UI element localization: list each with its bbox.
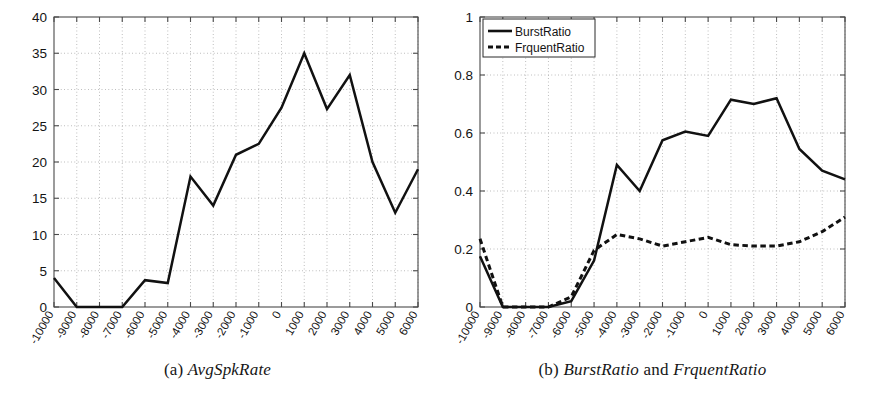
x-tick-label-group: 4000 xyxy=(351,309,374,337)
x-tick-label: 0 xyxy=(270,309,284,321)
x-tick-label: -4000 xyxy=(167,309,192,340)
x-tick-label-group: -9000 xyxy=(53,309,78,340)
x-tick-label: 2000 xyxy=(306,309,329,337)
x-tick-label-group: -10000 xyxy=(27,309,55,346)
figure-panel-a: 0510152025303540-10000-9000-8000-7000-60… xyxy=(0,0,435,416)
x-tick-label: 5000 xyxy=(374,309,397,337)
legend-label-frquentratio: FrquentRatio xyxy=(515,41,585,55)
y-tick-label: 25 xyxy=(32,119,47,134)
y-tick-label: 35 xyxy=(32,46,47,61)
x-tick-label: -8000 xyxy=(76,309,101,340)
x-tick-label-group: 0 xyxy=(696,309,710,321)
x-tick-label-group: -7000 xyxy=(99,309,124,340)
x-tick-label-group: -9000 xyxy=(479,309,504,340)
x-tick-label-group: 1000 xyxy=(709,309,732,337)
x-tick-label: -5000 xyxy=(144,309,169,340)
x-tick-label: 6000 xyxy=(397,309,420,337)
y-tick-label: 0.4 xyxy=(454,184,473,199)
x-tick-label: -6000 xyxy=(548,309,573,340)
x-tick-label: -5000 xyxy=(571,309,596,340)
x-tick-label: 6000 xyxy=(824,309,847,337)
x-tick-label-group: 5000 xyxy=(801,309,824,337)
x-tick-label: -9000 xyxy=(479,309,504,340)
x-tick-label-group: 1000 xyxy=(283,309,306,337)
x-tick-label: -10000 xyxy=(453,309,481,346)
x-tick-label: -2000 xyxy=(639,309,664,340)
x-tick-label-group: -1000 xyxy=(235,309,260,340)
y-tick-label: 0.8 xyxy=(454,68,473,83)
caption-a: (a) AvgSpkRate xyxy=(0,360,435,380)
x-tick-label: -2000 xyxy=(213,309,238,340)
x-tick-label: -1000 xyxy=(662,309,687,340)
y-tick-label: 0.2 xyxy=(454,242,473,257)
x-tick-label: -3000 xyxy=(190,309,215,340)
x-tick-label: 0 xyxy=(696,309,710,321)
y-tick-label: 40 xyxy=(32,10,47,25)
caption-b-conjunction: and xyxy=(644,360,669,379)
x-tick-label: 1000 xyxy=(283,309,306,337)
x-tick-label: -4000 xyxy=(594,309,619,340)
y-tick-label: 0.6 xyxy=(454,126,473,141)
caption-a-text: AvgSpkRate xyxy=(188,360,271,379)
x-tick-label: 1000 xyxy=(709,309,732,337)
x-tick-label-group: -3000 xyxy=(190,309,215,340)
x-tick-label-group: 4000 xyxy=(778,309,801,337)
x-tick-label-group: 6000 xyxy=(824,309,847,337)
figure-panel-b: 00.20.40.60.81-10000-9000-8000-7000-6000… xyxy=(435,0,870,416)
x-tick-label-group: -2000 xyxy=(213,309,238,340)
x-tick-label-group: -10000 xyxy=(453,309,481,346)
y-tick-label: 10 xyxy=(32,228,47,243)
x-tick-label: -8000 xyxy=(502,309,527,340)
x-tick-label: 4000 xyxy=(778,309,801,337)
x-tick-label-group: 3000 xyxy=(328,309,351,337)
caption-a-label: (a) xyxy=(164,360,183,379)
x-tick-label-group: -4000 xyxy=(167,309,192,340)
caption-b: (b) BurstRatio and FrquentRatio xyxy=(435,360,870,380)
x-tick-label: -3000 xyxy=(616,309,641,340)
x-tick-label-group: 6000 xyxy=(397,309,420,337)
x-tick-label-group: 2000 xyxy=(732,309,755,337)
x-tick-label: 4000 xyxy=(351,309,374,337)
y-tick-label: 15 xyxy=(32,191,47,206)
x-tick-label-group: -4000 xyxy=(594,309,619,340)
x-tick-label-group: -8000 xyxy=(502,309,527,340)
y-tick-label: 30 xyxy=(32,83,47,98)
x-tick-label-group: -1000 xyxy=(662,309,687,340)
x-tick-label-group: -7000 xyxy=(525,309,550,340)
caption-b-label: (b) xyxy=(539,360,559,379)
x-tick-label-group: -6000 xyxy=(122,309,147,340)
x-tick-label: 2000 xyxy=(732,309,755,337)
plot-background xyxy=(480,17,845,307)
x-tick-label-group: 5000 xyxy=(374,309,397,337)
x-tick-label: -1000 xyxy=(235,309,260,340)
x-tick-label-group: -5000 xyxy=(144,309,169,340)
y-tick-label: 1 xyxy=(465,10,473,25)
x-tick-label-group: -5000 xyxy=(571,309,596,340)
x-tick-label-group: -6000 xyxy=(548,309,573,340)
x-tick-label-group: -8000 xyxy=(76,309,101,340)
y-tick-label: 20 xyxy=(32,155,47,170)
caption-b-text-1: BurstRatio xyxy=(563,360,639,379)
x-tick-label: 3000 xyxy=(328,309,351,337)
x-tick-label-group: 3000 xyxy=(755,309,778,337)
x-tick-label-group: -3000 xyxy=(616,309,641,340)
x-tick-label: -7000 xyxy=(525,309,550,340)
figure-container: 0510152025303540-10000-9000-8000-7000-60… xyxy=(0,0,870,416)
x-tick-label-group: -2000 xyxy=(639,309,664,340)
x-tick-label-group: 2000 xyxy=(306,309,329,337)
chart-b-burstratio-frquentratio: 00.20.40.60.81-10000-9000-8000-7000-6000… xyxy=(435,0,870,360)
caption-b-text-2: FrquentRatio xyxy=(673,360,766,379)
x-tick-label: -6000 xyxy=(122,309,147,340)
legend-label-burstratio: BurstRatio xyxy=(515,25,571,39)
x-tick-label: 5000 xyxy=(801,309,824,337)
chart-a-avgspkrate: 0510152025303540-10000-9000-8000-7000-60… xyxy=(0,0,435,360)
x-tick-label: 3000 xyxy=(755,309,778,337)
x-tick-label: -9000 xyxy=(53,309,78,340)
x-tick-label-group: 0 xyxy=(270,309,284,321)
x-tick-label: -7000 xyxy=(99,309,124,340)
x-tick-label: -10000 xyxy=(27,309,55,346)
y-tick-label: 5 xyxy=(39,264,47,279)
